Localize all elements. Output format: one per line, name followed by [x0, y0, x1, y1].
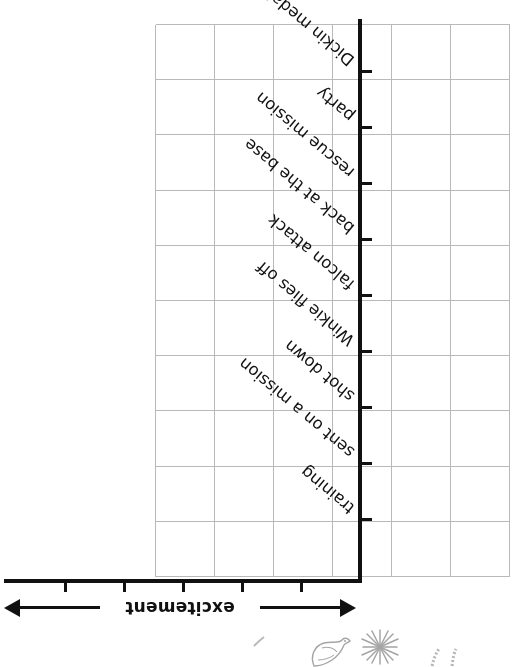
- grid-line-horizontal: [156, 300, 510, 301]
- starburst-sketch: [358, 628, 402, 667]
- x-axis-title-wrap: excitement: [100, 595, 260, 621]
- arrow-left-icon: [340, 599, 356, 617]
- value-tick: [182, 580, 185, 592]
- value-tick: [123, 580, 126, 592]
- grid-line-horizontal: [156, 521, 510, 522]
- worksheet-canvas: excitement trainingsent on a missionshot…: [0, 0, 514, 667]
- category-tick: [360, 238, 372, 241]
- pigeon-sketch: [308, 630, 354, 667]
- category-tick: [360, 350, 372, 353]
- excitement-axis-arrow: excitement: [4, 595, 356, 621]
- grid-line-vertical: [214, 25, 215, 577]
- chart-sheet-rotated: excitement trainingsent on a missionshot…: [0, 0, 514, 667]
- grid-line-horizontal: [156, 410, 510, 411]
- grid-line-horizontal: [156, 190, 510, 191]
- category-tick: [360, 70, 372, 73]
- grid-line-vertical: [391, 25, 392, 577]
- grid-line-horizontal: [156, 355, 510, 356]
- grid-line-vertical: [155, 25, 156, 577]
- value-tick: [241, 580, 244, 592]
- category-tick: [360, 126, 372, 129]
- small-mark-sketch: [252, 634, 266, 648]
- grid-line-horizontal: [156, 576, 510, 577]
- grid-line-vertical: [509, 25, 510, 577]
- x-axis-title: excitement: [100, 595, 260, 621]
- grid-line-horizontal: [156, 245, 510, 246]
- category-tick: [360, 406, 372, 409]
- value-tick: [300, 580, 303, 592]
- feather-marks-sketch: [428, 648, 468, 667]
- grid-line-horizontal: [156, 134, 510, 135]
- category-axis-line: [358, 19, 362, 583]
- category-tick: [360, 294, 372, 297]
- category-tick: [360, 462, 372, 465]
- grid-line-vertical: [450, 25, 451, 577]
- grid-line-horizontal: [156, 24, 510, 25]
- grid-line-horizontal: [156, 79, 510, 80]
- category-tick: [360, 182, 372, 185]
- grid-line-horizontal: [156, 466, 510, 467]
- value-tick: [64, 580, 67, 592]
- arrow-right-icon: [4, 599, 20, 617]
- category-tick: [360, 518, 372, 521]
